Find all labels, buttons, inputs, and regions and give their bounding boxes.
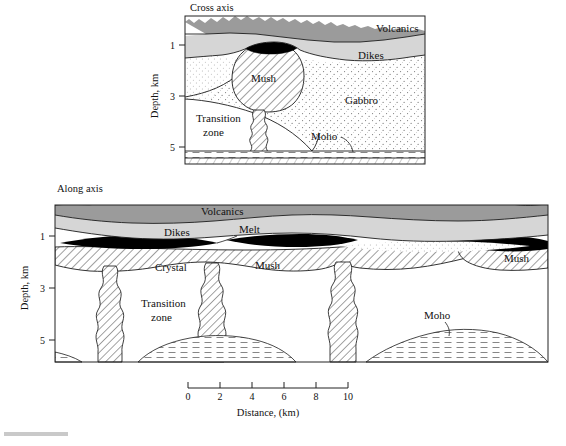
y-tick-label-1-along: 1: [40, 231, 45, 242]
x-axis-title: Distance, (km): [237, 407, 300, 419]
cross-axis-y-axis: 1 3 5 Depth, km: [149, 40, 185, 153]
label-crystal-along: Crystal: [155, 261, 187, 273]
panel-title-cross-axis: Cross axis: [190, 2, 233, 13]
x-tick-label-6: 6: [282, 391, 287, 402]
label-dikes-cross: Dikes: [358, 49, 384, 61]
label-transition-cross: Transition: [196, 112, 241, 124]
along-axis-y-axis: 1 3 5 Depth, km: [19, 231, 55, 346]
label-dikes-along: Dikes: [164, 226, 190, 238]
x-tick-label-0: 0: [186, 391, 191, 402]
y-tick-label-5-cross: 5: [170, 142, 175, 153]
geology-cross-section-figure: Cross axis: [0, 0, 566, 446]
x-tick-label-2: 2: [218, 391, 223, 402]
y-tick-label-3-along: 3: [40, 283, 45, 294]
label-moho-cross: Moho: [311, 130, 338, 142]
x-tick-label-8: 8: [314, 391, 319, 402]
label-transition-zone-cross: zone: [203, 126, 224, 138]
label-gabbro-cross: Gabbro: [345, 94, 378, 106]
figure-root: Cross axis: [0, 0, 566, 446]
x-tick-label-10: 10: [343, 391, 353, 402]
label-melt-along: Melt: [239, 223, 260, 235]
y-tick-label-3-cross: 3: [170, 91, 175, 102]
cross-axis-section-body: [185, 16, 425, 166]
label-mush-right-along: Mush: [504, 252, 530, 264]
label-transition-along: Transition: [141, 297, 186, 309]
label-moho-along: Moho: [424, 309, 451, 321]
label-volcanics-along: Volcanics: [201, 205, 244, 217]
label-mush-center-along: Mush: [255, 259, 281, 271]
y-axis-title-along: Depth, km: [19, 266, 30, 310]
y-tick-label-5-along: 5: [40, 335, 45, 346]
y-tick-label-1-cross: 1: [170, 40, 175, 51]
x-tick-label-4: 4: [250, 391, 255, 402]
y-axis-title-cross: Depth, km: [149, 74, 160, 118]
layer-mantle-hatch-cross: [185, 158, 425, 166]
label-mush-cross: Mush: [251, 72, 277, 84]
label-volcanics-cross: Volcanics: [376, 22, 419, 34]
label-transition-zone-along: zone: [151, 311, 172, 323]
panel-title-along-axis: Along axis: [57, 183, 103, 194]
footer-scan-artifact: [4, 432, 68, 436]
panel-along-axis: Along axis: [19, 183, 548, 365]
layer-mantle-dash-cross: [185, 151, 425, 158]
distance-axis: 0 2 4 6 8 10 Distance, (km): [186, 382, 354, 419]
panel-cross-axis: Cross axis: [149, 2, 425, 166]
along-axis-section-body: [55, 199, 548, 365]
